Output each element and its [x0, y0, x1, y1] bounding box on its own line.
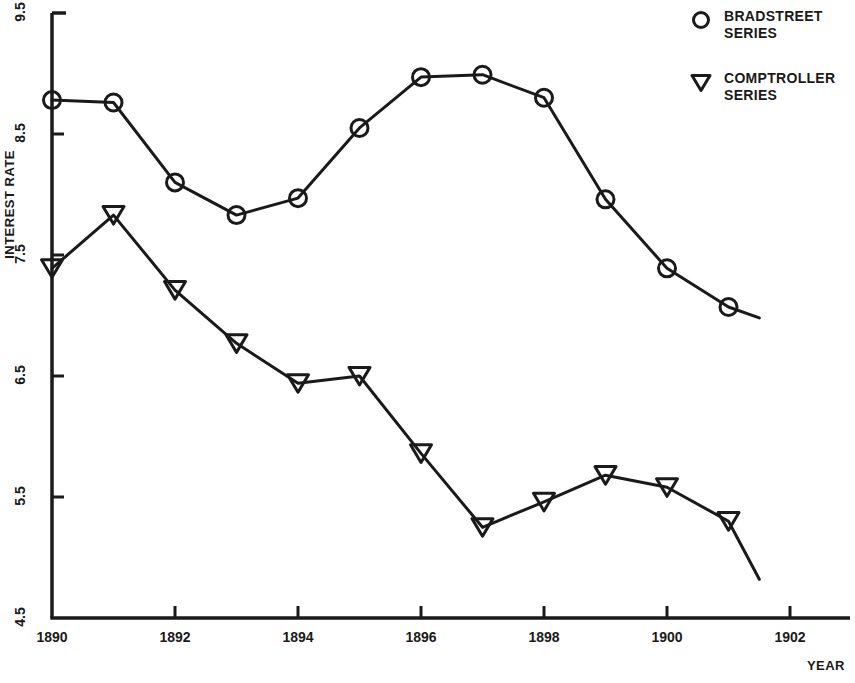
- y-tick-label: 9.5: [12, 0, 28, 32]
- circle-glyph: [694, 13, 709, 28]
- legend-label: BRADSTREET SERIES: [724, 8, 823, 41]
- legend-triangle-icon: [690, 71, 712, 93]
- legend-circle-icon: [690, 9, 712, 31]
- x-tick-label: 1894: [263, 629, 333, 645]
- series-line: [52, 215, 759, 579]
- x-tick-label: 1892: [140, 629, 210, 645]
- series-bradstreet: [44, 66, 760, 318]
- y-axis-ticks: [52, 134, 64, 497]
- y-tick-label: 5.5: [12, 476, 28, 516]
- x-tick-label: 1890: [17, 629, 87, 645]
- legend-item-comptroller: COMPTROLLER SERIES: [690, 70, 835, 103]
- y-tick-label: 8.5: [12, 113, 28, 153]
- data-series-layer: [42, 66, 760, 579]
- triangle-glyph: [692, 76, 710, 91]
- y-tick-label: 7.5: [12, 234, 28, 274]
- series-comptroller: [42, 206, 760, 579]
- x-tick-label: 1898: [509, 629, 579, 645]
- series-line: [52, 75, 759, 318]
- chart-figure: INTEREST RATE YEAR 4.55.56.57.58.59.5189…: [0, 0, 855, 683]
- x-axis-ticks: [175, 606, 790, 618]
- x-tick-label: 1902: [755, 629, 825, 645]
- x-tick-label: 1896: [386, 629, 456, 645]
- legend-label: COMPTROLLER SERIES: [724, 70, 835, 103]
- legend-item-bradstreet: BRADSTREET SERIES: [690, 8, 823, 41]
- x-tick-label: 1900: [632, 629, 702, 645]
- y-tick-label: 6.5: [12, 355, 28, 395]
